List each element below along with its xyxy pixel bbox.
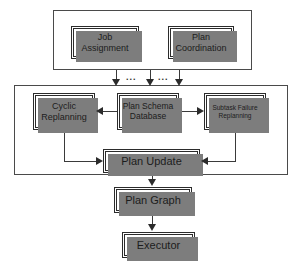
- node-plan-coordination: Plan Coordination: [168, 26, 234, 59]
- connector-cyclic-down: [64, 130, 65, 161]
- node-cyclic-replanning-line1: Cyclic: [52, 101, 76, 111]
- arrowhead-pm-2: [146, 79, 154, 86]
- arrowhead-plan-update-to-plan-graph: [148, 179, 156, 186]
- connector-subtask-across: [208, 161, 236, 162]
- node-plan-schema-database-line2: Database: [130, 112, 166, 122]
- node-job-assignment: Job Assignment: [71, 26, 139, 59]
- node-plan-coordination-line2: Coordination: [175, 43, 226, 53]
- arrowhead-db-to-cyclic: [96, 107, 103, 115]
- arrowhead-plan-graph-to-executor: [148, 224, 156, 231]
- arrowhead-pm-1: [112, 79, 120, 86]
- node-executor-label: Executor: [137, 239, 180, 251]
- connector-subtask-down: [235, 130, 236, 161]
- ellipsis-right: ...: [158, 73, 169, 82]
- connector-cyclic-across: [64, 161, 96, 162]
- node-job-assignment-line2: Assignment: [81, 43, 128, 53]
- arrowhead-db-to-subtask: [197, 107, 204, 115]
- node-subtask-failure-replanning-line1: Subtask Failure: [212, 104, 257, 111]
- ellipsis-left: ...: [126, 73, 137, 82]
- node-plan-schema-database: Plan Schema Database: [117, 93, 179, 130]
- planner-architecture-diagram: Planner Manager Job Assignment Plan Coor…: [0, 0, 303, 272]
- node-job-assignment-line1: Job: [98, 32, 113, 42]
- node-subtask-failure-replanning-line2: Replanning: [219, 112, 252, 119]
- node-cyclic-replanning-line2: Replanning: [41, 112, 87, 122]
- node-cyclic-replanning: Cyclic Replanning: [33, 93, 95, 130]
- node-subtask-failure-replanning: Subtask Failure Replanning: [204, 93, 266, 130]
- node-plan-update: Plan Update: [103, 149, 200, 173]
- node-plan-graph: Plan Graph: [114, 187, 192, 213]
- node-plan-coordination-line1: Plan: [192, 32, 210, 42]
- connector-db-to-subtask: [181, 111, 197, 112]
- node-plan-update-label: Plan Update: [121, 155, 182, 167]
- arrowhead-subtask-to-plan-update: [201, 157, 208, 165]
- arrowhead-cyclic-to-plan-update: [96, 157, 103, 165]
- node-plan-graph-label: Plan Graph: [125, 194, 181, 206]
- arrowhead-pm-3: [175, 79, 183, 86]
- node-executor: Executor: [122, 232, 195, 258]
